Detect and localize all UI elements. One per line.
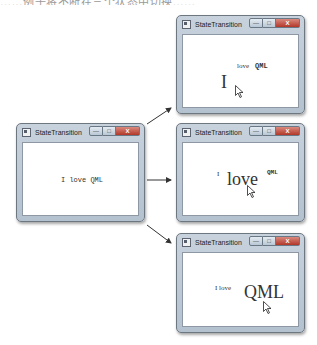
word-QML: QML (267, 170, 278, 176)
window-initial: StateTransition — □ X I love QML (16, 123, 145, 222)
word-I: I (217, 171, 219, 178)
mouse-cursor-icon (247, 185, 256, 198)
minimize-button[interactable]: — (89, 126, 103, 136)
app-icon[interactable] (182, 128, 191, 137)
app-icon[interactable] (182, 238, 191, 247)
window-title: StateTransition (195, 239, 249, 246)
close-button[interactable]: X (276, 126, 300, 136)
word-I: I (221, 73, 227, 91)
word-love: love (237, 63, 249, 70)
minimize-button[interactable]: — (249, 236, 263, 246)
mouse-cursor-icon (235, 85, 244, 98)
window-title: StateTransition (195, 129, 249, 136)
window-client[interactable]: I love QML (22, 142, 139, 216)
mouse-cursor-icon (263, 301, 272, 314)
title-bar[interactable]: StateTransition — □ X (17, 124, 144, 141)
app-icon[interactable] (182, 20, 191, 29)
close-button[interactable]: X (276, 236, 300, 246)
words-I-love: I love (215, 285, 231, 292)
window-client[interactable]: I love QML (182, 34, 299, 108)
maximize-button[interactable]: □ (263, 126, 276, 136)
window-state-I: StateTransition — □ X I love QML (176, 15, 305, 114)
close-button[interactable]: X (276, 18, 300, 28)
window-state-love: StateTransition — □ X I love QML (176, 123, 305, 222)
window-client[interactable]: I love QML (182, 142, 299, 216)
maximize-button[interactable]: □ (263, 236, 276, 246)
maximize-button[interactable]: □ (103, 126, 116, 136)
window-client[interactable]: I love QML (182, 252, 299, 327)
minimize-button[interactable]: — (249, 18, 263, 28)
window-title: StateTransition (35, 129, 89, 136)
close-button[interactable]: X (116, 126, 140, 136)
word-QML: QML (244, 283, 284, 301)
window-title: StateTransition (195, 21, 249, 28)
minimize-button[interactable]: — (249, 126, 263, 136)
phrase-text: I love QML (61, 177, 103, 184)
arrow-to-state-QML (147, 225, 171, 243)
maximize-button[interactable]: □ (263, 18, 276, 28)
title-bar[interactable]: StateTransition — □ X (177, 16, 304, 33)
arrow-to-state-I (147, 108, 171, 124)
window-state-QML: StateTransition — □ X I love QML (176, 233, 305, 333)
app-icon[interactable] (22, 128, 31, 137)
title-bar[interactable]: StateTransition — □ X (177, 234, 304, 251)
word-QML: QML (255, 63, 268, 70)
title-bar[interactable]: StateTransition — □ X (177, 124, 304, 141)
